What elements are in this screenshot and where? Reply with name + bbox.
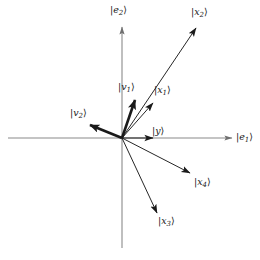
axis-label-e2: |e2⟩ (110, 5, 127, 17)
vector-label-v1: |v1⟩ (118, 82, 135, 94)
vector-label-y: |y⟩ (152, 126, 164, 138)
vector-label-x3: |x3⟩ (158, 216, 175, 228)
vector-v1 (122, 100, 135, 138)
vector-x3 (122, 138, 157, 213)
vector-label-x1: |x1⟩ (154, 85, 171, 97)
vector-label-x4: |x4⟩ (194, 177, 211, 189)
vector-label-v2: |v2⟩ (70, 108, 87, 120)
diagram-canvas (0, 0, 260, 260)
vector-x4 (122, 138, 190, 173)
vector-v2 (90, 125, 122, 138)
axis-label-e1: |e1⟩ (236, 132, 253, 144)
vector-label-x2: |x2⟩ (191, 7, 208, 19)
vector-diagram: |e1⟩ |e2⟩ |x2⟩ |x1⟩ |v1⟩ |v2⟩ |y⟩ |x4⟩ |… (0, 0, 260, 260)
